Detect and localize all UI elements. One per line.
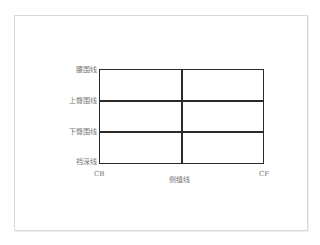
upper-hip-line-label: 上臀围线: [69, 97, 97, 105]
side-seam-label: 侧缝线: [169, 176, 190, 184]
upper-hip-grid-line: [99, 100, 264, 102]
cb-label: CB: [94, 170, 105, 178]
cf-label: CF: [259, 170, 269, 178]
lower-hip-line-label: 下臀围线: [69, 128, 97, 136]
grid-center-vertical-line: [181, 69, 183, 164]
crotch-depth-line-label: 裆深线: [76, 158, 97, 166]
lower-hip-grid-line: [99, 131, 264, 133]
waist-line-label: 腰围线: [76, 66, 97, 74]
